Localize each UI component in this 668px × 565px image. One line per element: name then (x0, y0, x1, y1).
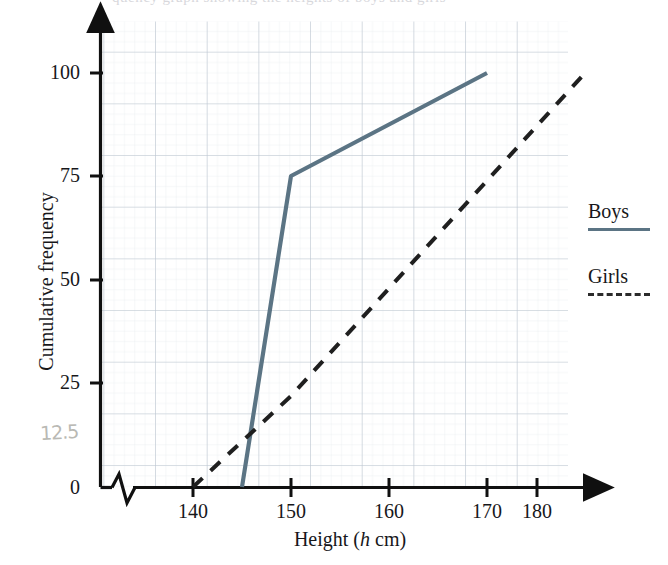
x-tick-label-180: 180 (507, 500, 567, 523)
handwritten-annotation-12-5: 12.5 (39, 420, 78, 444)
x-tick-label-150: 150 (261, 500, 321, 523)
legend-swatch-girls-dashed-line (588, 293, 650, 296)
y-axis-title: Cumulative frequency (35, 162, 58, 402)
chart-page: quency graph showing the heights of boys… (0, 0, 668, 565)
x-axis-title-prefix: Height ( (294, 528, 360, 550)
legend-label-boys: Boys (588, 200, 668, 222)
chart-legend: Boys Girls (588, 200, 668, 330)
legend-swatch-boys-solid-line (588, 228, 650, 231)
x-tick-label-140: 140 (163, 500, 223, 523)
y-tick-label-0: 0 (22, 476, 80, 499)
legend-label-girls: Girls (588, 265, 668, 287)
legend-entry-boys: Boys (588, 200, 668, 231)
x-axis-title-suffix: cm) (370, 528, 406, 550)
legend-entry-girls: Girls (588, 265, 668, 296)
x-axis-title-variable: h (360, 528, 370, 550)
x-tick-label-160: 160 (359, 500, 419, 523)
y-tick-label-100: 100 (22, 61, 80, 84)
x-axis-title: Height (h cm) (210, 528, 490, 551)
plot-grid (100, 22, 568, 488)
cumulative-frequency-chart (0, 0, 668, 565)
